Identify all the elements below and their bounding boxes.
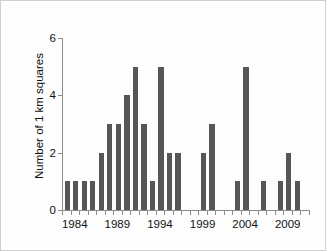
bar [99,153,104,210]
y-axis-title: Number of 1 km squares [33,36,45,196]
x-tick-mark [309,211,310,215]
x-tick-mark [173,211,174,215]
x-tick-mark [122,211,123,215]
bar [158,67,163,210]
bar [201,153,206,210]
y-tick-label: 0 [50,204,56,216]
x-tick-mark [258,211,259,215]
x-tick-mark [113,211,114,215]
y-tick-mark [58,38,62,39]
y-tick-label: 2 [50,147,56,159]
bar [286,153,291,210]
x-tick-mark [232,211,233,215]
bar [65,181,70,210]
x-tick-mark [79,211,80,215]
x-tick-label: 2009 [275,218,301,230]
x-tick-mark [88,211,89,215]
x-tick-mark [266,211,267,215]
x-tick-label: 1984 [62,218,88,230]
bar [73,181,78,210]
x-tick-mark [224,211,225,215]
x-tick-mark [139,211,140,215]
y-tick-label: 4 [50,89,56,101]
chart-figure: Number of 1 km squares 0246 198419891994… [0,0,326,251]
x-tick-mark [198,211,199,215]
x-tick-mark [292,211,293,215]
bar [90,181,95,210]
bar [150,181,155,210]
x-tick-mark [249,211,250,215]
bars-layer [63,38,310,210]
x-tick-label: 1994 [147,218,173,230]
x-tick-mark [283,211,284,215]
x-tick-mark [190,211,191,215]
bar [175,153,180,210]
bar [133,67,138,210]
bar [235,181,240,210]
x-tick-mark [300,211,301,215]
bar [167,153,172,210]
x-tick-mark [147,211,148,215]
x-tick-mark [71,211,72,215]
plot-area: 0246 198419891994199920042009 [62,38,310,210]
x-tick-mark [96,211,97,215]
bar [243,67,248,210]
bar [141,124,146,210]
x-tick-label: 1999 [190,218,216,230]
bar [295,181,300,210]
x-tick-mark [207,211,208,215]
y-tick-mark [58,95,62,96]
x-tick-mark [105,211,106,215]
bar [82,181,87,210]
y-tick-mark [58,153,62,154]
x-tick-mark [275,211,276,215]
bar [107,124,112,210]
x-tick-mark [62,211,63,215]
bar [209,124,214,210]
x-tick-mark [181,211,182,215]
x-tick-mark [156,211,157,215]
x-tick-mark [215,211,216,215]
bar [116,124,121,210]
x-tick-mark [241,211,242,215]
bar [124,95,129,210]
x-tick-label: 1989 [105,218,131,230]
x-tick-mark [164,211,165,215]
y-tick-label: 6 [50,32,56,44]
bar [278,181,283,210]
bar [261,181,266,210]
x-axis-line [62,210,310,211]
x-tick-mark [130,211,131,215]
chart-plate: Number of 1 km squares 0246 198419891994… [5,5,323,248]
x-tick-label: 2004 [232,218,258,230]
